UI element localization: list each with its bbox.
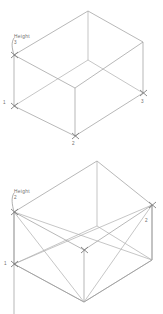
diagonal-left-to-front (14, 212, 84, 302)
vertex-label-2: 2 (72, 141, 75, 146)
interior-edge-back-right (88, 60, 143, 93)
interior-edge-back-right (97, 226, 152, 260)
diagonal-left-to-right (14, 212, 152, 260)
interior-edge-left-back (14, 226, 97, 264)
vertex-label-1: 1 (3, 100, 6, 105)
height-value: 3 (14, 40, 17, 45)
lower-edge-left-front (14, 264, 84, 302)
isometric-box-top: Height 3 1 2 3 (0, 0, 163, 150)
bottom-edge-left-front (14, 106, 75, 136)
vertex-label-3: 3 (141, 99, 144, 104)
isometric-box-bottom: Height 2 1 2 (0, 150, 163, 314)
vertex-label-1: 1 (4, 261, 7, 266)
vertex-label-2: 2 (145, 218, 148, 223)
bottom-edge-front-right (75, 93, 143, 136)
top-face-outline (14, 11, 143, 88)
height-caption: Height (14, 189, 30, 194)
top-face-outline (14, 161, 152, 250)
diagram-canvas: Height 3 1 2 3 (0, 0, 163, 314)
height-value: 2 (14, 195, 17, 200)
interior-edge-left-back (14, 60, 88, 106)
lower-edge-front-right (84, 260, 152, 302)
height-caption: Height (14, 34, 30, 39)
